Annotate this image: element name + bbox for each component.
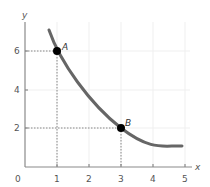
chart: y x 0 1 2 3 4 5 6 4 2 A B bbox=[0, 0, 210, 187]
guide-lines bbox=[25, 51, 121, 167]
y-tick-6: 6 bbox=[14, 46, 20, 56]
y-tick-4: 4 bbox=[14, 85, 20, 95]
x-tick-4: 4 bbox=[150, 174, 156, 184]
x-tick-3: 3 bbox=[118, 174, 124, 184]
x-axis-label: x bbox=[194, 162, 201, 172]
y-axis-label: y bbox=[21, 10, 28, 20]
point-b bbox=[117, 124, 125, 132]
x-tick-5: 5 bbox=[182, 174, 188, 184]
y-tick-2: 2 bbox=[14, 123, 20, 133]
x-tick-2: 2 bbox=[86, 174, 92, 184]
point-b-label: B bbox=[125, 118, 131, 128]
curve bbox=[49, 30, 182, 146]
point-a bbox=[53, 47, 61, 55]
origin-label: 0 bbox=[15, 174, 21, 184]
x-tick-1: 1 bbox=[54, 174, 60, 184]
point-a-label: A bbox=[61, 42, 68, 52]
